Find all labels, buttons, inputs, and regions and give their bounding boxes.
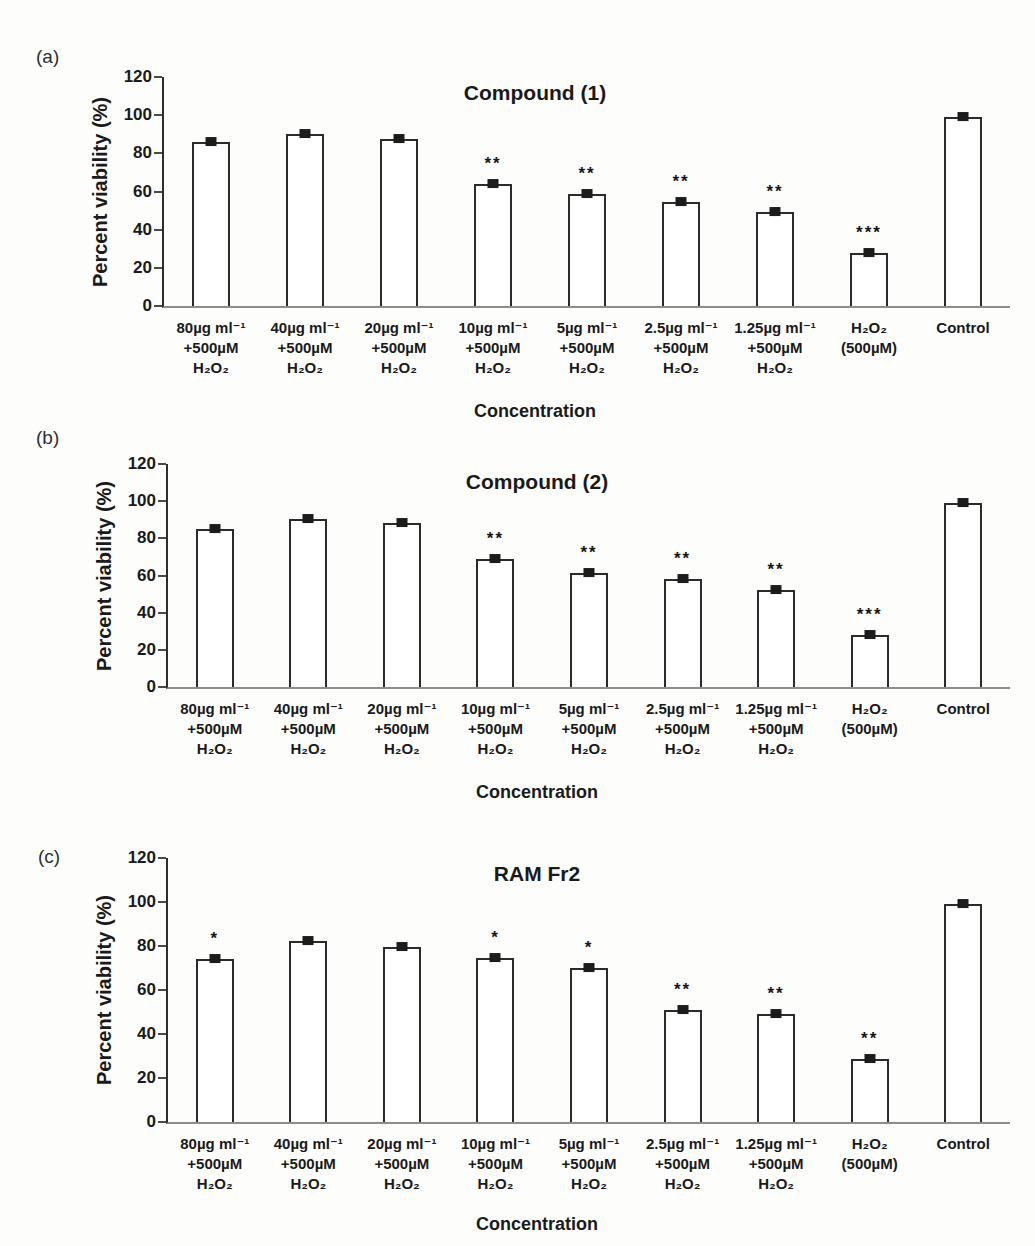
y-tick-label: 0 [106, 677, 156, 697]
bar [850, 253, 888, 306]
y-tick-label: 100 [102, 105, 152, 125]
significance-stars: ** [736, 560, 816, 580]
bar [757, 1014, 795, 1122]
bar [664, 579, 702, 687]
bar [474, 184, 512, 306]
y-tick-label: 0 [106, 1112, 156, 1132]
y-tick-label: 40 [106, 1024, 156, 1044]
error-bar-marker [303, 936, 314, 945]
y-tick-mark [158, 500, 166, 502]
bar [944, 904, 982, 1122]
y-tick-label: 120 [106, 848, 156, 868]
significance-stars: ** [643, 980, 723, 1000]
y-tick-mark [158, 649, 166, 651]
significance-stars: ** [455, 529, 535, 549]
error-bar-marker [206, 137, 217, 146]
bar [289, 519, 327, 687]
error-bar-marker [490, 953, 501, 962]
x-tick-label: H₂O₂ (500µM) [815, 318, 923, 358]
significance-stars: ** [735, 182, 815, 202]
x-tick-label: 20µg ml⁻¹ +500µM H₂O₂ [348, 699, 456, 759]
bar [944, 117, 982, 306]
x-tick-label: 40µg ml⁻¹ +500µM H₂O₂ [254, 1134, 362, 1194]
y-tick-mark [158, 686, 166, 688]
chart-title-b: Compound (2) [116, 470, 958, 494]
x-tick-label: 1.25µg ml⁻¹ +500µM H₂O₂ [722, 1134, 830, 1194]
y-tick-mark [154, 152, 162, 154]
x-tick-label: 80µg ml⁻¹ +500µM H₂O₂ [157, 318, 265, 378]
y-tick-mark [158, 857, 166, 859]
x-tick-label: 5µg ml⁻¹ +500µM H₂O₂ [535, 1134, 643, 1194]
y-tick-mark [154, 267, 162, 269]
y-tick-label: 20 [102, 258, 152, 278]
error-bar-marker [958, 112, 969, 121]
plot-area-c: RAM Fr2 Percent viability (%) Concentrat… [166, 858, 1010, 1124]
error-bar-marker [771, 585, 782, 594]
significance-stars: ** [736, 984, 816, 1004]
y-tick-mark [158, 901, 166, 903]
y-tick-label: 60 [106, 980, 156, 1000]
significance-stars: ** [549, 543, 629, 563]
significance-stars: ** [830, 1029, 910, 1049]
error-bar-marker [394, 134, 405, 143]
bar [570, 968, 608, 1122]
y-tick-label: 100 [106, 491, 156, 511]
significance-stars: * [549, 938, 629, 958]
bar [664, 1010, 702, 1122]
bar [383, 947, 421, 1122]
error-bar-marker [676, 197, 687, 206]
bar [570, 573, 608, 687]
error-bar-marker [396, 942, 407, 951]
y-tick-mark [154, 114, 162, 116]
x-tick-label: 40µg ml⁻¹ +500µM H₂O₂ [251, 318, 359, 378]
chart-title-a: Compound (1) [112, 81, 958, 105]
x-axis-label-b: Concentration [116, 782, 958, 803]
plot-area-a: Compound (1) Percent viability (%) Conce… [162, 77, 1010, 308]
y-tick-mark [158, 989, 166, 991]
x-tick-label: H₂O₂ (500µM) [816, 699, 924, 739]
x-tick-label: 5µg ml⁻¹ +500µM H₂O₂ [535, 699, 643, 759]
x-tick-label: 1.25µg ml⁻¹ +500µM H₂O₂ [721, 318, 829, 378]
error-bar-marker [864, 248, 875, 257]
y-tick-mark [154, 191, 162, 193]
x-axis-label-c: Concentration [116, 1214, 958, 1235]
x-tick-label: 10µg ml⁻¹ +500µM H₂O₂ [441, 699, 549, 759]
x-tick-label: 2.5µg ml⁻¹ +500µM H₂O₂ [629, 699, 737, 759]
error-bar-marker [488, 179, 499, 188]
error-bar-marker [864, 1054, 875, 1063]
bar [662, 202, 700, 306]
error-bar-marker [300, 129, 311, 138]
x-tick-label: 10µg ml⁻¹ +500µM H₂O₂ [439, 318, 547, 378]
panel-label-a: (a) [36, 46, 59, 68]
error-bar-marker [958, 899, 969, 908]
y-tick-mark [158, 945, 166, 947]
panel-label-c: (c) [38, 846, 60, 868]
y-tick-label: 120 [102, 67, 152, 87]
y-tick-label: 60 [106, 566, 156, 586]
y-tick-label: 40 [102, 220, 152, 240]
x-tick-label: 1.25µg ml⁻¹ +500µM H₂O₂ [722, 699, 830, 759]
bar [851, 1059, 889, 1122]
bar [286, 134, 324, 306]
x-tick-label: 20µg ml⁻¹ +500µM H₂O₂ [345, 318, 453, 378]
significance-stars: ** [641, 172, 721, 192]
bar [568, 194, 606, 306]
significance-stars: *** [830, 605, 910, 625]
error-bar-marker [677, 1005, 688, 1014]
y-tick-label: 0 [102, 296, 152, 316]
error-bar-marker [864, 630, 875, 639]
y-tick-mark [158, 612, 166, 614]
error-bar-marker [209, 524, 220, 533]
y-tick-mark [158, 1121, 166, 1123]
y-tick-mark [158, 537, 166, 539]
y-tick-label: 40 [106, 603, 156, 623]
panel-label-b: (b) [36, 427, 59, 449]
y-tick-mark [154, 76, 162, 78]
bar [289, 941, 327, 1123]
x-tick-label: 2.5µg ml⁻¹ +500µM H₂O₂ [627, 318, 735, 378]
significance-stars: ** [547, 164, 627, 184]
bar [476, 559, 514, 687]
x-tick-label: 2.5µg ml⁻¹ +500µM H₂O₂ [629, 1134, 737, 1194]
x-tick-label: 40µg ml⁻¹ +500µM H₂O₂ [254, 699, 362, 759]
bar [476, 958, 514, 1122]
